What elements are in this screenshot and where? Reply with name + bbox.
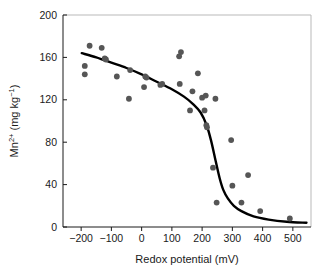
redox-manganese-scatter-plot: 04080120160200 −200−1000100200300400500 …	[0, 0, 326, 278]
data-point	[213, 96, 219, 102]
x-tick-label: 400	[254, 232, 272, 244]
data-point	[228, 137, 234, 143]
data-point	[99, 45, 105, 51]
data-point	[127, 67, 133, 73]
data-point	[126, 96, 132, 102]
x-tick-label: −200	[69, 232, 93, 244]
data-point	[87, 43, 93, 49]
data-point	[103, 57, 109, 63]
y-tick-label: 0	[51, 221, 57, 233]
figure-container: 04080120160200 −200−1000100200300400500 …	[0, 0, 326, 278]
x-tick-label: 500	[284, 232, 302, 244]
y-tick-label: 120	[39, 93, 57, 105]
x-axis-title: Redox potential (mV)	[135, 253, 238, 265]
data-point	[114, 74, 120, 80]
y-tick-label: 200	[39, 9, 57, 21]
data-point	[141, 84, 147, 90]
x-tick-label: 0	[139, 232, 145, 244]
y-axis-title: Mn2+ (mg kg−1)	[7, 85, 20, 158]
y-tick-label: 160	[39, 51, 57, 63]
x-tick-label: 300	[224, 232, 242, 244]
data-point	[245, 172, 251, 178]
data-point	[210, 165, 216, 171]
x-axis-tick-labels: −200−1000100200300400500	[69, 232, 301, 244]
data-point	[239, 200, 245, 206]
data-point	[159, 81, 165, 87]
data-point	[229, 183, 235, 189]
data-point	[187, 108, 193, 114]
x-tick-label: 200	[193, 232, 211, 244]
x-tick-label: 100	[163, 232, 181, 244]
data-point	[204, 124, 210, 130]
x-tick-label: −100	[100, 232, 124, 244]
data-points-group	[82, 43, 293, 222]
y-tick-label: 40	[45, 178, 57, 190]
data-point	[177, 81, 183, 87]
data-point	[82, 63, 88, 69]
data-point	[257, 208, 263, 214]
y-tick-label: 80	[45, 136, 57, 148]
data-point	[203, 93, 209, 99]
data-point	[214, 200, 220, 206]
data-point	[190, 88, 196, 94]
y-axis-title-text: Mn2+ (mg kg−1)	[7, 85, 20, 158]
data-point	[287, 216, 293, 222]
y-axis-tick-labels: 04080120160200	[39, 9, 57, 233]
data-point	[202, 108, 208, 114]
data-point	[144, 75, 150, 81]
data-point	[195, 70, 201, 76]
data-point	[82, 71, 88, 77]
x-axis-ticks	[81, 227, 293, 231]
data-point	[178, 49, 184, 55]
y-axis-ticks	[63, 15, 67, 227]
